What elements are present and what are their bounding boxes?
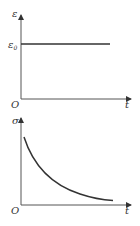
stress-origin-label: O bbox=[11, 205, 19, 216]
strain-level-label: ε0 bbox=[8, 39, 17, 51]
stress-chart: σ O t bbox=[11, 115, 131, 216]
strain-origin-label: O bbox=[11, 99, 19, 110]
strain-chart: ε ε0 O t bbox=[8, 8, 131, 110]
stress-x-label: t bbox=[125, 205, 130, 216]
strain-stress-figure: ε ε0 O t σ O t bbox=[0, 0, 140, 226]
strain-x-label: t bbox=[125, 99, 130, 110]
stress-decay-curve bbox=[24, 137, 113, 201]
stress-y-label: σ bbox=[12, 115, 20, 126]
strain-y-label: ε bbox=[12, 8, 17, 19]
